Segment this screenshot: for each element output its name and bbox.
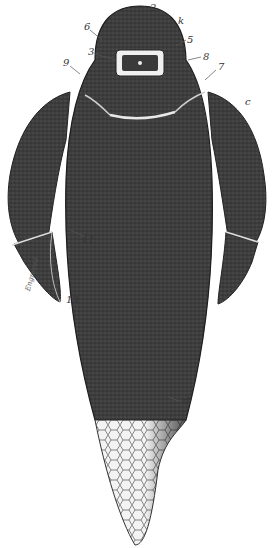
label-3: 3 [88,47,94,57]
label-c: c [245,97,251,107]
label-7: 7 [218,62,224,72]
label-8: 8 [203,52,209,62]
label-5a: 5 [187,35,193,45]
fish-drawing [0,0,278,548]
label-d: d [183,396,189,406]
label-11: 11 [82,235,95,245]
left-pectoral-fin [8,92,70,302]
right-pectoral-fin [208,92,266,304]
label-9: 9 [63,58,69,68]
label-k: k [178,16,184,26]
label-13: 13 [66,295,79,305]
label-2: 2 [150,3,156,13]
fossil-illustration: 2 k 6 5 3 8 5 9 7 c 11 13 d Engraved [0,0,278,548]
label-6: 6 [84,22,90,32]
